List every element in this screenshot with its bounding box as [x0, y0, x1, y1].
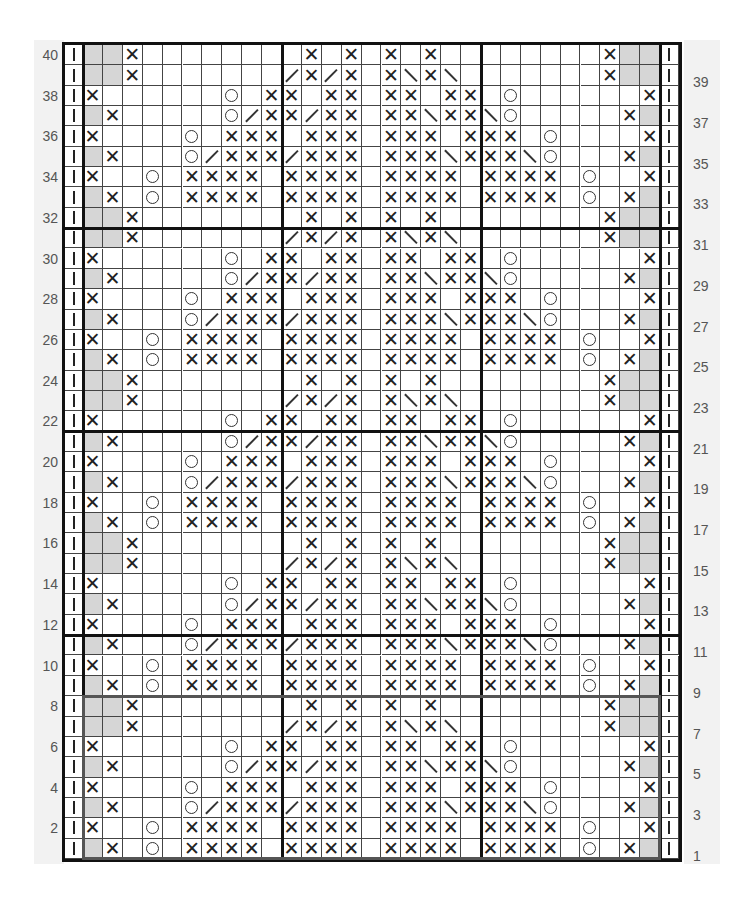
x-stitch-icon: ✕ [264, 798, 280, 817]
x-stitch-icon: ✕ [622, 513, 638, 532]
x-stitch-icon: ✕ [104, 269, 120, 288]
x-stitch-icon: ✕ [244, 473, 260, 492]
x-stitch-icon: ✕ [482, 839, 498, 858]
x-stitch-icon: ✕ [244, 310, 260, 329]
stitch-bar-icon [668, 150, 670, 163]
row-number-label: 29 [693, 278, 723, 294]
row-number-label: 5 [693, 766, 723, 782]
chart-cell [421, 411, 441, 431]
chart-cell: ✕ [382, 778, 402, 798]
chart-cell [202, 737, 222, 757]
chart-cell: ✕ [382, 208, 402, 228]
chart-cell: ✕ [421, 289, 441, 309]
chart-cell [103, 452, 123, 472]
chart-cell: ✕ [421, 310, 441, 330]
x-stitch-icon: ✕ [184, 350, 200, 369]
x-stitch-icon: ✕ [323, 432, 339, 451]
x-stitch-icon: ✕ [303, 798, 319, 817]
chart-cell [541, 391, 561, 411]
x-stitch-icon: ✕ [303, 228, 319, 247]
x-stitch-icon: ✕ [124, 208, 140, 227]
chart-cell: ✕ [83, 493, 103, 513]
x-stitch-icon: ✕ [383, 839, 399, 858]
chart-cell: ✕ [183, 350, 203, 370]
chart-cell: ✕ [501, 839, 521, 859]
chart-cell: ✕ [640, 656, 660, 676]
row-number-label: 8 [28, 698, 58, 714]
chart-cell [521, 411, 541, 431]
chart-cell [65, 696, 83, 716]
x-stitch-icon: ✕ [423, 656, 439, 675]
x-stitch-icon: ✕ [502, 615, 518, 634]
chart-cell [362, 656, 382, 676]
chart-cell: ✕ [461, 574, 481, 594]
x-stitch-icon: ✕ [622, 188, 638, 207]
x-stitch-icon: ✕ [463, 615, 479, 634]
chart-cell: ✕ [401, 269, 421, 289]
chart-cell [581, 126, 601, 146]
x-stitch-icon: ✕ [642, 778, 658, 797]
chart-cell [143, 615, 163, 635]
chart-cell [202, 371, 222, 391]
row-number-label: 1 [693, 848, 723, 864]
chart-cell: ✕ [382, 289, 402, 309]
x-stitch-icon: ✕ [264, 289, 280, 308]
x-stitch-icon: ✕ [323, 106, 339, 125]
yarn-over-icon [504, 598, 517, 611]
chart-cell [501, 717, 521, 737]
chart-cell: ✕ [401, 656, 421, 676]
chart-cell [163, 65, 183, 85]
chart-cell [640, 208, 660, 228]
chart-cell: ✕ [83, 615, 103, 635]
chart-cell [581, 513, 601, 533]
chart-cell: ✕ [382, 635, 402, 655]
chart-cell: ✕ [441, 106, 461, 126]
x-stitch-icon: ✕ [84, 778, 100, 797]
chart-cell [541, 289, 561, 309]
chart-cell [481, 106, 501, 126]
stitch-bar-icon [668, 374, 670, 387]
yarn-over-icon [583, 821, 596, 834]
chart-cell [123, 411, 143, 431]
chart-cell [163, 249, 183, 269]
chart-cell: ✕ [302, 533, 322, 553]
chart-cell: ✕ [282, 656, 302, 676]
chart-cell [441, 310, 461, 330]
chart-cell [362, 554, 382, 574]
x-stitch-icon: ✕ [283, 411, 299, 430]
chart-cell [561, 147, 581, 167]
chart-cell: ✕ [342, 452, 362, 472]
chart-cell [600, 513, 620, 533]
chart-cell [163, 391, 183, 411]
chart-cell: ✕ [461, 635, 481, 655]
chart-cell [282, 391, 302, 411]
x-stitch-icon: ✕ [283, 818, 299, 837]
chart-cell [521, 615, 541, 635]
chart-cell [123, 249, 143, 269]
x-stitch-icon: ✕ [303, 534, 319, 553]
row-number-label: 9 [693, 685, 723, 701]
x-stitch-icon: ✕ [244, 289, 260, 308]
chart-cell [83, 350, 103, 370]
x-stitch-icon: ✕ [283, 513, 299, 532]
chart-cell: ✕ [322, 147, 342, 167]
chart-cell: ✕ [262, 411, 282, 431]
left-slant-icon [484, 598, 497, 611]
chart-cell [581, 615, 601, 635]
chart-cell [163, 289, 183, 309]
chart-cell: ✕ [401, 493, 421, 513]
x-stitch-icon: ✕ [622, 147, 638, 166]
chart-cell: ✕ [302, 818, 322, 838]
x-stitch-icon: ✕ [482, 818, 498, 837]
yarn-over-icon [504, 109, 517, 122]
chart-cell: ✕ [501, 635, 521, 655]
chart-cell: ✕ [421, 371, 441, 391]
chart-cell: ✕ [342, 289, 362, 309]
left-slant-icon [424, 109, 437, 122]
x-stitch-icon: ✕ [323, 86, 339, 105]
x-stitch-icon: ✕ [224, 452, 240, 471]
yarn-over-icon [146, 333, 159, 346]
chart-cell: ✕ [322, 594, 342, 614]
row-number-label: 3 [693, 807, 723, 823]
chart-cell: ✕ [501, 330, 521, 350]
